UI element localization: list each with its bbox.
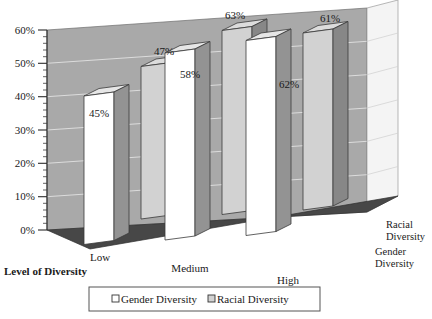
legend: Gender Diversity Racial Diversity	[89, 287, 320, 311]
x-axis-title: Level of Diversity	[4, 265, 88, 277]
value-label-gender-medium: 58%	[180, 68, 200, 80]
y-tick-label-20: 20%	[15, 157, 35, 169]
y-tick-label-60: 60%	[15, 24, 35, 36]
bar-racial-high-front	[303, 29, 333, 210]
legend-swatch-white	[112, 295, 119, 302]
bar-gender-high[interactable]	[246, 29, 291, 236]
side-wall	[367, 0, 398, 212]
legend-item-gender[interactable]: Gender Diversity	[112, 293, 198, 305]
y-tick-label-40: 40%	[15, 90, 35, 102]
bar-racial-high[interactable]	[303, 22, 348, 211]
category-label-medium: Medium	[171, 262, 209, 274]
series-side-label-racial-line2: Diversity	[386, 231, 426, 242]
category-labels: Low Medium High	[90, 251, 300, 286]
y-axis-major-ticks	[38, 30, 47, 230]
category-label-high: High	[277, 274, 300, 286]
y-tick-label-50: 50%	[15, 57, 35, 69]
bar-racial-high-side	[333, 22, 348, 207]
chart-container: 0% 10% 20% 30% 40% 50% 60%	[0, 0, 432, 319]
value-label-gender-high: 62%	[279, 78, 299, 90]
category-label-low: Low	[90, 251, 110, 263]
value-label-racial-low: 47%	[154, 45, 174, 57]
bar-gender-high-side	[276, 29, 291, 232]
y-tick-label-30: 30%	[15, 124, 35, 136]
series-depth-labels: Racial Diversity Gender Diversity	[375, 219, 426, 269]
bar-gender-high-front	[246, 37, 276, 236]
value-label-gender-low: 45%	[89, 107, 109, 119]
value-label-racial-high: 61%	[320, 12, 340, 24]
series-side-label-gender-line2: Diversity	[375, 258, 415, 269]
y-tick-label-10: 10%	[15, 190, 35, 202]
series-side-label-racial-line1: Racial	[386, 219, 413, 230]
y-tick-label-0: 0%	[20, 224, 35, 236]
three-d-bar-chart: 0% 10% 20% 30% 40% 50% 60%	[0, 0, 432, 319]
bar-gender-low-side	[114, 85, 129, 241]
legend-item-racial[interactable]: Racial Diversity	[208, 293, 289, 305]
series-side-label-gender-line1: Gender	[375, 246, 406, 257]
legend-swatch-gray	[208, 295, 215, 302]
value-label-racial-medium: 63%	[225, 9, 245, 21]
legend-label-racial: Racial Diversity	[217, 293, 289, 305]
y-axis: 0% 10% 20% 30% 40% 50% 60%	[15, 24, 47, 236]
legend-label-gender: Gender Diversity	[121, 293, 198, 305]
